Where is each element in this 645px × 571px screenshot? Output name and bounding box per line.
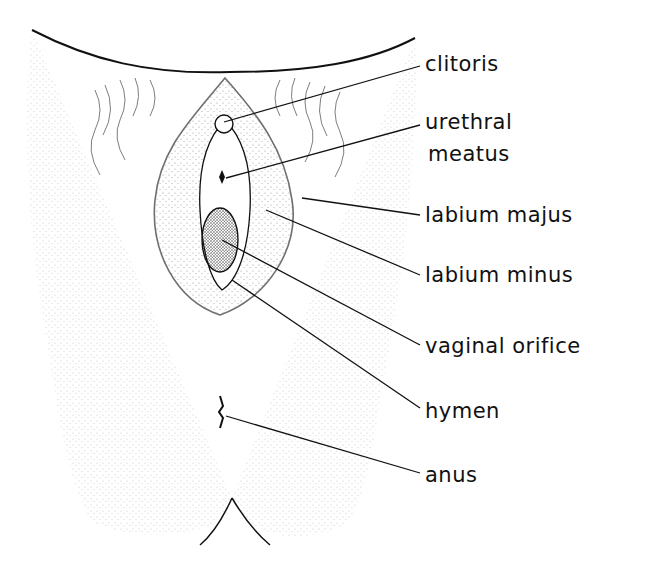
- label-meatus: meatus: [428, 142, 510, 166]
- label-urethral: urethral: [425, 110, 512, 134]
- label-labium-minus: labium minus: [425, 263, 573, 287]
- label-hymen: hymen: [425, 399, 500, 423]
- label-clitoris: clitoris: [425, 52, 499, 76]
- label-anus: anus: [425, 463, 477, 487]
- vaginal-orifice-shape: [202, 208, 238, 272]
- anus-shape: [219, 396, 223, 428]
- label-labium-majus: labium majus: [425, 203, 573, 227]
- label-vaginal-orifice: vaginal orifice: [425, 334, 581, 358]
- clitoris-shape: [215, 115, 233, 133]
